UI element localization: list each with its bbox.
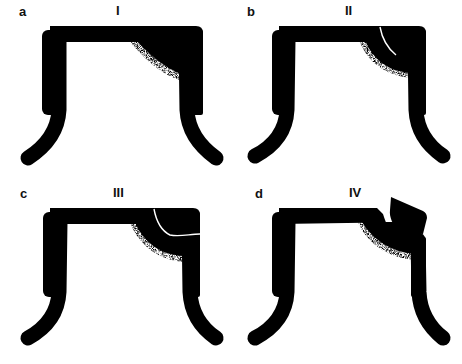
crown-profile-diagram (231, 0, 462, 182)
crown-profile-diagram (0, 182, 231, 364)
panel-a: a I (0, 0, 231, 182)
crown-profile-diagram (231, 182, 462, 364)
crown-profile-diagram (0, 0, 231, 182)
panel-b: b II (231, 0, 462, 182)
panel-d: d IV (231, 182, 462, 364)
panel-c: c III (0, 182, 231, 364)
